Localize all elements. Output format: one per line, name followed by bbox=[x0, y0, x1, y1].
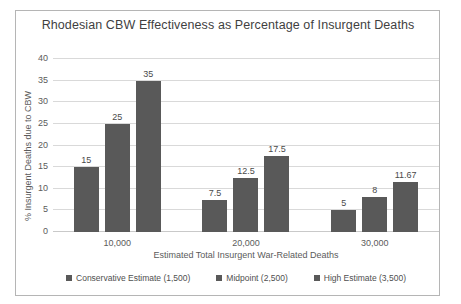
bar-item[interactable]: 25 bbox=[105, 59, 130, 232]
bar[interactable] bbox=[136, 81, 161, 232]
y-axis-tick-label: 20 bbox=[38, 140, 48, 150]
bar-item[interactable]: 17.5 bbox=[264, 59, 289, 232]
legend-swatch-icon bbox=[66, 275, 72, 281]
legend-swatch-icon bbox=[216, 275, 222, 281]
y-axis-tick-label: 5 bbox=[43, 204, 48, 214]
bar-item[interactable]: 15 bbox=[74, 59, 99, 232]
bar-group: 15253510,000 bbox=[53, 59, 182, 232]
bar[interactable] bbox=[362, 197, 387, 232]
legend-item[interactable]: Midpoint (2,500) bbox=[216, 273, 287, 283]
bar-item[interactable]: 5 bbox=[331, 59, 356, 232]
bar-group: 5811.6730,000 bbox=[310, 59, 439, 232]
bar-item[interactable]: 35 bbox=[136, 59, 161, 232]
plot-area: 051015202530354015253510,0007.512.517.52… bbox=[53, 59, 439, 232]
bar-value-label: 12.5 bbox=[237, 166, 255, 176]
legend-label: High Estimate (3,500) bbox=[324, 273, 406, 283]
bar-value-label: 8 bbox=[372, 185, 377, 195]
bar[interactable] bbox=[233, 178, 258, 232]
y-axis-tick-label: 30 bbox=[38, 96, 48, 106]
chart-container: Rhodesian CBW Effectiveness as Percentag… bbox=[15, 10, 440, 296]
y-axis-tick-label: 40 bbox=[38, 53, 48, 63]
legend-item[interactable]: High Estimate (3,500) bbox=[314, 273, 406, 283]
x-axis-tick-label: 20,000 bbox=[182, 238, 311, 248]
chart-legend: Conservative Estimate (1,500)Midpoint (2… bbox=[46, 273, 426, 283]
legend-swatch-icon bbox=[314, 275, 320, 281]
y-axis-title: % Insurgent Deaths due to CBW bbox=[20, 69, 36, 242]
bar-item[interactable]: 11.67 bbox=[393, 59, 418, 232]
bar[interactable] bbox=[393, 182, 418, 232]
bar-value-label: 17.5 bbox=[268, 144, 286, 154]
bar-value-label: 5 bbox=[341, 198, 346, 208]
legend-label: Midpoint (2,500) bbox=[226, 273, 287, 283]
bar-value-label: 7.5 bbox=[209, 188, 222, 198]
bar-item[interactable]: 7.5 bbox=[202, 59, 227, 232]
y-axis-title-label: % Insurgent Deaths due to CBW bbox=[23, 90, 33, 220]
y-axis-tick-label: 0 bbox=[43, 226, 48, 236]
bar[interactable] bbox=[105, 124, 130, 232]
bar-item[interactable]: 8 bbox=[362, 59, 387, 232]
x-axis-title: Estimated Total Insurgent War-Related De… bbox=[53, 250, 439, 260]
y-axis-tick-label: 35 bbox=[38, 75, 48, 85]
bar[interactable] bbox=[202, 200, 227, 232]
bar-value-label: 11.67 bbox=[395, 170, 417, 180]
x-axis-tick-label: 10,000 bbox=[53, 238, 182, 248]
legend-item[interactable]: Conservative Estimate (1,500) bbox=[66, 273, 190, 283]
bar-item[interactable]: 12.5 bbox=[233, 59, 258, 232]
y-axis-tick-label: 10 bbox=[38, 183, 48, 193]
legend-label: Conservative Estimate (1,500) bbox=[76, 273, 190, 283]
bar[interactable] bbox=[331, 210, 356, 232]
bar-value-label: 35 bbox=[143, 69, 153, 79]
bar-value-label: 25 bbox=[112, 112, 122, 122]
bar-value-label: 15 bbox=[81, 155, 91, 165]
x-axis-tick-label: 30,000 bbox=[310, 238, 439, 248]
chart-title: Rhodesian CBW Effectiveness as Percentag… bbox=[38, 17, 418, 33]
bar-group: 7.512.517.520,000 bbox=[182, 59, 311, 232]
bar[interactable] bbox=[264, 156, 289, 232]
y-axis-tick-label: 25 bbox=[38, 118, 48, 128]
y-axis-tick-label: 15 bbox=[38, 161, 48, 171]
bar[interactable] bbox=[74, 167, 99, 232]
